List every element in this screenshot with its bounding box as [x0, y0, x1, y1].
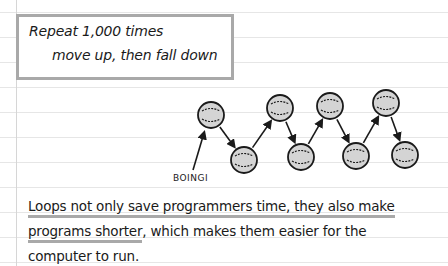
paragraph-line-2: programs shorter, which makes them easie… [28, 223, 366, 239]
arrow-down-icon [391, 117, 399, 139]
ball-4-baseball-icon [288, 144, 314, 170]
ball-circle [317, 93, 343, 119]
ball-circle [288, 144, 314, 170]
ball-2-baseball-icon [231, 147, 257, 173]
arrow-up-icon [253, 122, 271, 148]
highlighted-text: programs shorter [28, 223, 142, 243]
ball-3-baseball-icon [267, 95, 293, 121]
ball-circle [198, 102, 224, 128]
highlighted-text: Loops not only save programmers time, th… [28, 198, 395, 218]
ball-7-baseball-icon [373, 90, 399, 116]
notebook-page: Repeat 1,000 times move up, then fall do… [0, 0, 448, 266]
arrow-down-icon [220, 127, 234, 146]
ball-8-baseball-icon [392, 142, 418, 168]
ball-5-baseball-icon [317, 93, 343, 119]
paragraph-line-1: Loops not only save programmers time, th… [28, 198, 395, 214]
arrow-up-icon [308, 121, 321, 144]
ball-circle [231, 147, 257, 173]
ball-circle [267, 95, 293, 121]
arrow-down-icon [337, 119, 348, 141]
arrow-down-icon [286, 122, 294, 142]
ball-circle [373, 90, 399, 116]
paragraph-text: , which makes them easier for the [142, 223, 366, 239]
arrow-up-icon [363, 118, 377, 143]
ball-circle [392, 142, 418, 168]
arrow-up-icon [193, 133, 204, 170]
ball-6-baseball-icon [343, 143, 369, 169]
boing-label: BOINGI [173, 173, 208, 183]
ball-circle [343, 143, 369, 169]
ball-1-baseball-icon [198, 102, 224, 128]
paragraph-line-3: computer to run. [28, 248, 139, 264]
